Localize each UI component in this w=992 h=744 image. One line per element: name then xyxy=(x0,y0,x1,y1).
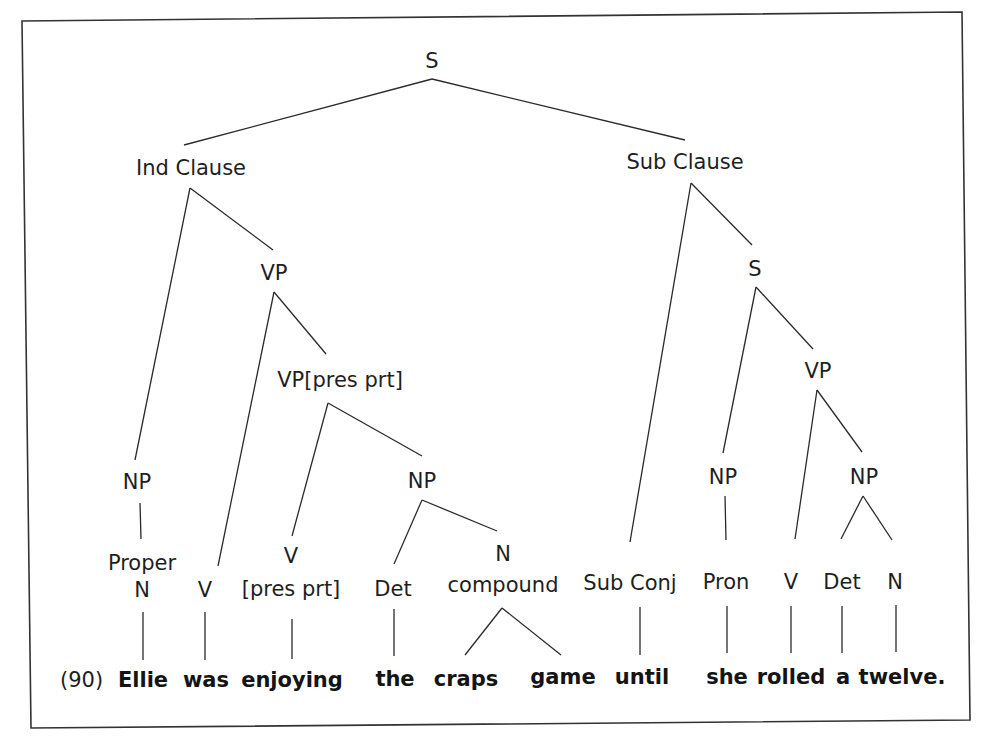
node-n-twelve: N xyxy=(887,570,903,594)
word-a: a xyxy=(836,665,850,689)
node-s-root: S xyxy=(425,49,438,73)
syntax-tree-diagram: S Ind Clause Sub Clause VP VP[pres prt] … xyxy=(0,0,992,744)
word-twelve: twelve. xyxy=(859,665,946,689)
node-s-sub: S xyxy=(748,257,761,281)
word-the: the xyxy=(375,667,414,691)
node-ind-clause: Ind Clause xyxy=(136,156,246,180)
node-np-pron: NP xyxy=(709,465,737,489)
node-vp-main: VP xyxy=(260,261,287,285)
node-v-was: V xyxy=(198,578,213,602)
node-np-sub-object: NP xyxy=(850,465,878,489)
node-sub-clause: Sub Clause xyxy=(626,150,743,174)
node-n-compound-line1: N xyxy=(495,542,511,566)
word-she: she xyxy=(706,665,748,689)
node-n-compound-line2: compound xyxy=(448,573,559,597)
node-sub-conj: Sub Conj xyxy=(583,571,676,595)
node-proper-n-line1: Proper xyxy=(108,551,177,575)
node-vp-sub: VP xyxy=(804,359,831,383)
node-v-rolled: V xyxy=(784,570,799,594)
word-enjoying: enjoying xyxy=(241,668,343,692)
word-game: game xyxy=(530,665,595,689)
node-v-pres-line2: [pres prt] xyxy=(242,577,341,601)
word-craps: craps xyxy=(434,667,499,691)
word-rolled: rolled xyxy=(757,665,825,689)
node-v-pres-line1: V xyxy=(284,544,299,568)
node-np-object: NP xyxy=(408,469,436,493)
node-det-the: Det xyxy=(374,577,411,601)
example-number: (90) xyxy=(60,668,103,692)
word-ellie: Ellie xyxy=(118,668,168,692)
word-was: was xyxy=(183,668,229,692)
word-until: until xyxy=(615,665,669,689)
node-np-subject: NP xyxy=(123,470,151,494)
node-pron: Pron xyxy=(703,570,750,594)
node-vp-pres-prt: VP[pres prt] xyxy=(277,368,403,392)
node-proper-n-line2: N xyxy=(134,578,150,602)
node-det-a: Det xyxy=(823,570,860,594)
